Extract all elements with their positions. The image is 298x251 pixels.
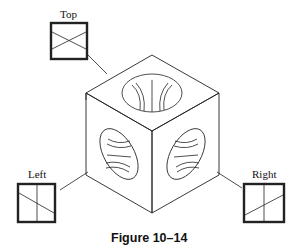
figure-caption: Figure 10–14 xyxy=(111,231,187,245)
left-hole xyxy=(92,122,146,185)
top-view-label: Top xyxy=(60,8,77,20)
top-view-box xyxy=(51,23,107,74)
right-view-label: Right xyxy=(252,168,276,180)
right-hole xyxy=(159,122,213,185)
left-view-label: Left xyxy=(28,168,46,180)
figure-canvas xyxy=(0,0,298,251)
top-hole xyxy=(122,74,182,112)
isometric-cube xyxy=(86,55,219,213)
